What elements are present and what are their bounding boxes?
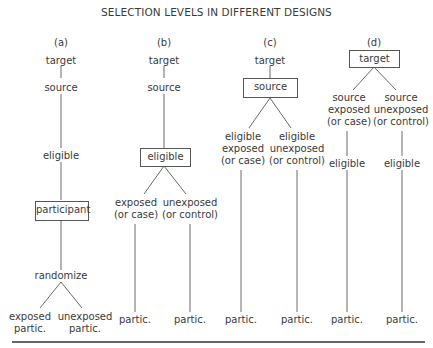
panel-b-or-control: (or control) [162, 209, 218, 221]
panel-d-unexposed: unexposed [374, 104, 429, 116]
panel-c-partic-left: partic. [225, 314, 257, 326]
panel-b-source: source [147, 82, 180, 94]
panel-c-exposed: exposed [222, 143, 264, 155]
panel-d-exposed: exposed [328, 104, 370, 116]
panel-a-participant-box: participant [35, 201, 89, 221]
panel-b-exposed: exposed [115, 197, 157, 209]
panel-b-or-case: (or case) [114, 209, 158, 221]
panel-c-unexposed: unexposed [270, 143, 325, 155]
panel-b-eligible-box: eligible [140, 148, 191, 167]
panel-a-target: target [46, 55, 76, 67]
panel-c-label: (c) [263, 37, 276, 49]
panel-a-exposed: exposed [9, 311, 51, 323]
panel-d-eligible-right: eligible [384, 158, 420, 170]
panel-d-target-box: target [349, 50, 400, 68]
panel-c-source-box: source [243, 78, 298, 98]
panel-b-target: target [149, 55, 179, 67]
panel-c-eligible-left: eligible [225, 131, 261, 143]
panel-d-partic-right: partic. [386, 314, 418, 326]
panel-a-unexposed-partic: partic. [69, 323, 101, 335]
panel-b-partic-left: partic. [119, 314, 151, 326]
panel-d-or-case: (or case) [327, 116, 371, 128]
panel-a-randomize: randomize [35, 270, 88, 282]
panel-d-source-right: source [384, 92, 417, 104]
panel-c-or-control: (or control) [269, 155, 325, 167]
panel-a-label: (a) [54, 37, 68, 49]
panel-b-unexposed: unexposed [163, 197, 218, 209]
panel-d-eligible-left: eligible [329, 158, 365, 170]
panel-d-source-left: source [332, 92, 365, 104]
panel-c-target: target [255, 55, 285, 67]
panel-a-eligible: eligible [43, 150, 79, 162]
panel-a-exposed-partic: partic. [14, 323, 46, 335]
panel-d-or-control: (or control) [373, 116, 429, 128]
panel-c-eligible-right: eligible [279, 131, 315, 143]
panel-d-label: (d) [367, 37, 381, 49]
panel-a-source: source [44, 82, 77, 94]
panel-b-partic-right: partic. [174, 314, 206, 326]
diagram-title: SELECTION LEVELS IN DIFFERENT DESIGNS [0, 6, 433, 18]
panel-a-unexposed: unexposed [58, 311, 113, 323]
panel-b-label: (b) [157, 37, 171, 49]
panel-c-or-case: (or case) [221, 155, 265, 167]
panel-c-partic-right: partic. [281, 314, 313, 326]
panel-d-partic-left: partic. [331, 314, 363, 326]
